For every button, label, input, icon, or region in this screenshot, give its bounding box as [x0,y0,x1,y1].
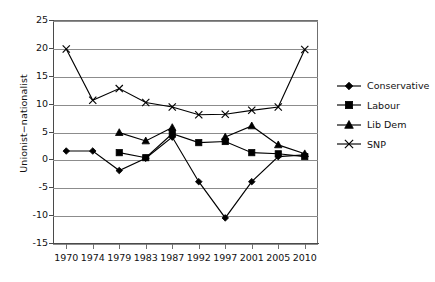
y-tick-label: 10 [18,99,48,109]
square-marker-icon [336,98,362,112]
legend-item-snp[interactable]: SNP [336,135,435,155]
legend-label: Lib Dem [362,119,406,130]
legend-label: Labour [362,100,400,111]
y-tick-label: 25 [18,15,48,25]
x-tick-mark [278,244,279,249]
series-snp [63,45,309,118]
x-tick-mark [199,244,200,249]
triangle-marker-icon [336,118,362,132]
y-tick-label: 20 [18,43,48,53]
legend-item-labour[interactable]: Labour [336,96,435,116]
y-tick-label: -15 [18,238,48,248]
legend-item-lib-dem[interactable]: Lib Dem [336,115,435,135]
x-tick-mark [305,244,306,249]
y-tick-label: 15 [18,71,48,81]
x-tick-label: 2010 [285,253,325,263]
y-tick-label: -10 [18,210,48,220]
legend: ConservativeLabourLib DemSNP [336,76,435,154]
x-tick-mark [119,244,120,249]
y-tick-label: -5 [18,182,48,192]
legend-label: SNP [362,139,386,150]
series-conservative [63,134,308,221]
x-tick-mark [172,244,173,249]
x-tick-mark [252,244,253,249]
line-chart: Unionist−nationalist 2520151050-5-10-15 … [0,0,435,282]
x-tick-mark [146,244,147,249]
legend-label: Conservative [362,80,429,91]
diamond-marker-icon [336,79,362,93]
y-tick-label: 0 [18,154,48,164]
legend-item-conservative[interactable]: Conservative [336,76,435,96]
cross-marker-icon [336,137,362,151]
y-tick-mark [49,243,54,244]
x-tick-mark [93,244,94,249]
series-layer [53,20,318,243]
x-tick-mark [225,244,226,249]
y-tick-label: 5 [18,127,48,137]
x-tick-mark [66,244,67,249]
